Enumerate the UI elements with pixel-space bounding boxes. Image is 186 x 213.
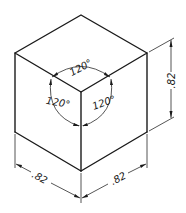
extension-line: [149, 117, 174, 131]
arrow-head: [73, 123, 80, 126]
arrow-head: [170, 40, 173, 47]
dimension-width-left: .82: [15, 134, 81, 203]
isometric-cube-diagram: 120° 120° 120° .82 .82 .82: [0, 0, 186, 213]
dimension-label-height: .82: [166, 73, 177, 89]
angle-label-top: 120°: [68, 57, 94, 78]
dimension-width-right: .82: [82, 134, 147, 198]
angle-label-left: 120°: [45, 95, 71, 110]
arrow-head: [170, 111, 173, 118]
cube-bottom-left-edge: [15, 132, 81, 171]
arrow-head: [140, 164, 146, 168]
cube: [15, 15, 147, 171]
arrow-head: [82, 123, 88, 126]
arrow-head: [74, 194, 80, 198]
arrow-head: [82, 194, 88, 198]
dimension-label-width-left: .82: [30, 169, 49, 186]
angle-label-right: 120°: [91, 93, 117, 112]
dimension-label-width-right: .82: [109, 170, 128, 187]
arrow-head: [16, 164, 22, 168]
cube-top-face: [15, 15, 147, 92]
dimension-height: .82: [149, 38, 177, 131]
cube-bottom-right-edge: [81, 132, 147, 171]
